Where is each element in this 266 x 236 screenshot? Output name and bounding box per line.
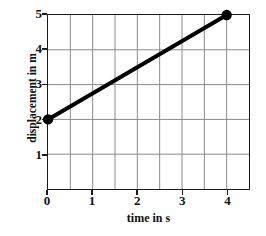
x-axis-tick-label: 1 — [77, 193, 107, 208]
y-axis-tick — [42, 119, 47, 121]
plot-area — [47, 14, 250, 190]
x-axis-tick-label: 0 — [32, 193, 62, 208]
y-axis-title: displacement in m — [26, 18, 38, 178]
x-axis-tick-label: 2 — [122, 193, 152, 208]
y-axis-tick — [42, 84, 47, 86]
chart-figure: 01234 12345 time in s displacement in m — [0, 0, 266, 236]
y-axis-tick — [42, 48, 47, 50]
x-axis-tick-label: 4 — [212, 193, 242, 208]
y-axis-tick — [42, 13, 47, 15]
x-axis-tick-label: 3 — [167, 193, 197, 208]
data-series-layer — [48, 15, 249, 189]
y-axis-tick — [42, 154, 47, 156]
x-axis-title: time in s — [47, 211, 250, 226]
